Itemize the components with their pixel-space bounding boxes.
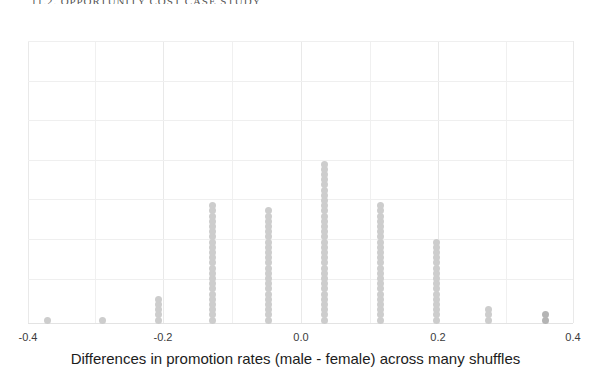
x-axis-title: Differences in promotion rates (male - f… — [0, 350, 591, 367]
gridline-vertical-minor — [95, 41, 96, 323]
gridline-vertical-minor — [506, 41, 507, 323]
x-tick-label: 0.2 — [430, 331, 445, 343]
gridline-horizontal — [28, 279, 573, 280]
dot-plot-figure: -0.4-0.20.00.20.4 Differences in promoti… — [0, 0, 591, 389]
data-dot — [44, 317, 51, 324]
plot-area — [28, 41, 573, 323]
x-axis-line — [28, 323, 573, 324]
gridline-vertical-minor — [232, 41, 233, 323]
gridline-horizontal — [28, 239, 573, 240]
gridline-horizontal — [28, 199, 573, 200]
gridline-horizontal — [28, 41, 573, 42]
x-tick-label: -0.4 — [19, 331, 38, 343]
data-dot — [155, 296, 162, 303]
gridline-vertical-major — [301, 41, 302, 323]
data-dot — [433, 239, 440, 246]
gridline-vertical-major — [28, 41, 29, 323]
x-tick-label: -0.2 — [154, 331, 173, 343]
gridline-vertical-minor — [370, 41, 371, 323]
data-dot — [99, 317, 106, 324]
data-dot — [265, 207, 272, 214]
x-tick-label: 0.4 — [565, 331, 580, 343]
gridline-vertical-major — [573, 41, 574, 323]
data-dot — [485, 306, 492, 313]
gridline-horizontal — [28, 160, 573, 161]
gridline-vertical-major — [163, 41, 164, 323]
data-dot — [377, 202, 384, 209]
data-dot — [542, 311, 549, 318]
gridline-horizontal — [28, 120, 573, 121]
x-tick-label: 0.0 — [293, 331, 308, 343]
gridline-horizontal — [28, 81, 573, 82]
data-dot — [209, 202, 216, 209]
data-dot — [321, 161, 328, 168]
